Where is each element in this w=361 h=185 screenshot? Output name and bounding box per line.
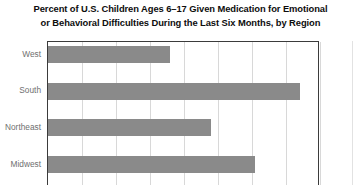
bar-south (48, 83, 300, 100)
chart-title: Percent of U.S. Children Ages 6–17 Given… (0, 2, 361, 29)
y-axis-label-northeast: Northeast (5, 122, 41, 132)
bar-west (48, 46, 170, 63)
y-axis-label-west: West (22, 49, 41, 59)
bar-midwest (48, 156, 255, 173)
page-edge-gridline (352, 41, 353, 185)
chart-title-line-2: or Behavioral Difficulties During the La… (0, 16, 361, 30)
y-axis-label-midwest: Midwest (11, 159, 41, 169)
plot-area (47, 41, 319, 185)
gridline-8 (320, 42, 321, 185)
bars-layer (48, 42, 318, 185)
bar-chart-figure: Percent of U.S. Children Ages 6–17 Given… (0, 0, 361, 185)
bar-northeast (48, 119, 211, 136)
chart-title-line-1: Percent of U.S. Children Ages 6–17 Given… (0, 2, 361, 16)
y-axis-category-labels: WestSouthNortheastMidwest (0, 41, 44, 185)
y-axis-label-south: South (19, 85, 41, 95)
